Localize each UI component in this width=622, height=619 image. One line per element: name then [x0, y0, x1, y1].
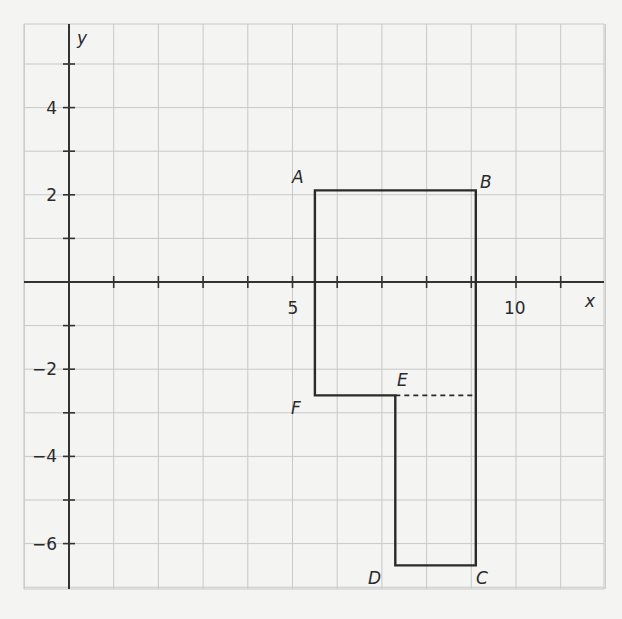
vertex-label-d: D [368, 568, 381, 588]
y-tick-label: 2 [46, 185, 57, 205]
y-tick-label: −2 [32, 359, 57, 379]
y-tick-label: −6 [32, 534, 57, 554]
axis-ticks: 51042−2−4−6 [32, 64, 561, 554]
vertex-label-a: A [291, 167, 304, 187]
vertex-label-c: C [476, 568, 488, 588]
vertex-label-b: B [480, 172, 492, 192]
coordinate-plane: 51042−2−4−6 x y A B C D E F [0, 0, 622, 619]
polygon-abcdef [315, 190, 476, 565]
vertex-label-e: E [397, 370, 408, 390]
x-tick-label: 5 [288, 298, 299, 318]
y-axis-label: y [76, 28, 88, 48]
x-tick-label: 10 [504, 298, 526, 318]
x-axis-label: x [584, 291, 596, 311]
polygon-outline [315, 190, 476, 565]
vertex-label-f: F [291, 398, 301, 418]
y-tick-label: 4 [46, 98, 57, 118]
y-tick-label: −4 [32, 446, 57, 466]
